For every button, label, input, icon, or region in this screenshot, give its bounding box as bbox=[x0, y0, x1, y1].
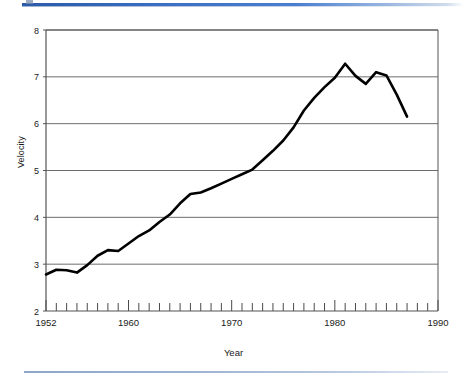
chart-canvas: 8765432 19521960197019801990 bbox=[0, 10, 467, 370]
data-series-line bbox=[46, 64, 407, 275]
y-tick-label: 2 bbox=[34, 307, 39, 317]
x-tick-label: 1990 bbox=[427, 317, 448, 328]
velocity-year-line-chart: 8765432 19521960197019801990 Velocity Ye… bbox=[0, 10, 467, 370]
y-tick-label: 6 bbox=[34, 119, 39, 129]
x-axis-title: Year bbox=[0, 347, 467, 358]
y-tick-label: 5 bbox=[34, 166, 39, 176]
y-axis-tick-labels: 8765432 bbox=[34, 26, 46, 317]
y-axis-title: Velocity bbox=[16, 154, 26, 168]
y-tick-label: 7 bbox=[34, 72, 39, 82]
y-tick-label: 8 bbox=[34, 26, 39, 36]
x-axis-tick-marks bbox=[46, 300, 438, 311]
x-tick-label: 1960 bbox=[118, 317, 139, 328]
chart-gridlines bbox=[46, 30, 438, 264]
y-tick-label: 3 bbox=[34, 260, 39, 270]
x-tick-label: 1980 bbox=[324, 317, 345, 328]
x-axis-tick-labels: 19521960197019801990 bbox=[35, 317, 448, 328]
page-rule-bottom bbox=[24, 371, 448, 373]
series-line-velocity bbox=[46, 64, 407, 275]
page-rule-top-shadow bbox=[22, 6, 464, 7]
y-tick-label: 4 bbox=[34, 213, 39, 223]
x-tick-label: 1970 bbox=[221, 317, 242, 328]
page-margin-mark bbox=[26, 0, 33, 4]
x-tick-label: 1952 bbox=[35, 317, 56, 328]
